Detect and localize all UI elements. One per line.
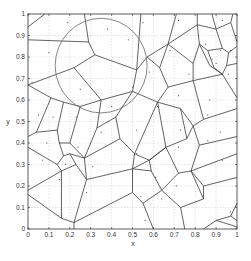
seed-point — [32, 82, 33, 83]
voronoi-edge — [28, 68, 74, 85]
seed-point — [145, 220, 146, 221]
voronoi-edge — [193, 74, 222, 80]
y-tick-label: 0.6 — [16, 96, 25, 103]
seed-point — [80, 89, 81, 90]
voronoi-edge — [160, 44, 168, 68]
seed-point — [76, 117, 77, 118]
voronoi-edge — [160, 68, 168, 87]
y-tick-label: 0.2 — [16, 182, 25, 189]
seed-point — [176, 186, 177, 187]
seed-point — [78, 147, 79, 148]
x-tick-label: 0.1 — [44, 231, 53, 238]
voronoi-edge — [151, 171, 161, 190]
voronoi-edge — [149, 160, 151, 171]
voronoi-edge — [143, 190, 162, 203]
seed-point — [65, 164, 66, 165]
voronoi-edge — [97, 100, 101, 128]
voronoi-edge — [191, 171, 204, 199]
voronoi-edge — [137, 14, 141, 70]
voronoi-edge — [84, 139, 120, 158]
seed-point — [92, 166, 93, 167]
seed-point — [230, 50, 231, 51]
seed-point — [207, 140, 208, 141]
voronoi-edge — [97, 117, 116, 128]
x-axis-label: x — [131, 240, 135, 247]
seed-point — [178, 95, 179, 96]
circle — [55, 18, 147, 113]
voronoi-edge — [116, 117, 120, 139]
x-tick-label: 0 — [26, 231, 30, 238]
voronoi-edge — [181, 199, 204, 208]
x-tick-label: 0.5 — [128, 231, 137, 238]
voronoi-edge — [193, 44, 199, 63]
voronoi-edge — [74, 68, 101, 100]
x-tick-label: 1 — [235, 231, 239, 238]
voronoi-edge — [28, 14, 45, 27]
voronoi-edge — [208, 51, 214, 68]
voronoi-edge — [222, 48, 228, 52]
x-tick-label: 0.3 — [86, 231, 95, 238]
voronoi-edge — [135, 102, 158, 154]
voronoi-edge — [204, 177, 237, 186]
y-tick-label: 0.7 — [16, 75, 25, 82]
voronoi-edge — [204, 109, 237, 120]
voronoi-edge — [133, 160, 150, 169]
seed-point — [149, 72, 150, 73]
voronoi-edge — [216, 216, 231, 220]
voronoi-edge — [158, 102, 181, 108]
seed-point — [136, 153, 137, 154]
seed-point — [161, 198, 162, 199]
voronoi-edge — [216, 23, 231, 29]
voronoi-edge — [197, 25, 199, 44]
seed-point — [38, 115, 39, 116]
seed-point — [209, 100, 210, 101]
voronoi-edge — [168, 81, 193, 87]
voronoi-edge — [133, 192, 143, 203]
voronoi-edge — [231, 14, 233, 23]
seed-point — [46, 143, 47, 144]
seed-point — [42, 160, 43, 161]
voronoi-edge — [36, 130, 57, 132]
voronoi-edge — [199, 137, 237, 146]
x-tick-label: 0.2 — [65, 231, 74, 238]
y-tick-label: 0.4 — [16, 139, 25, 146]
voronoi-edge — [59, 143, 63, 156]
voronoi-edge — [61, 165, 76, 171]
y-tick-label: 0.8 — [16, 53, 25, 60]
seed-point — [228, 74, 229, 75]
seed-point — [111, 106, 112, 107]
voronoi-edge — [133, 70, 137, 92]
x-tick-label: 0.9 — [212, 231, 221, 238]
seed-point — [188, 74, 189, 75]
seed-point — [86, 192, 87, 193]
seed-point — [53, 117, 54, 118]
seed-point — [142, 22, 143, 23]
voronoi-edge — [57, 156, 63, 165]
y-tick-label: 0.5 — [16, 118, 25, 125]
seed-point — [205, 44, 206, 45]
voronoi-edge — [204, 220, 217, 229]
voronoi-edge — [197, 25, 216, 29]
voronoi-edge — [84, 14, 88, 42]
seed-point — [180, 130, 181, 131]
voronoi-edge — [178, 171, 191, 173]
seed-point — [230, 211, 231, 212]
voronoi-edge — [28, 171, 61, 190]
seed-point — [136, 130, 137, 131]
voronoi-plot: 00.10.20.30.40.50.60.70.80.9100.10.20.30… — [0, 0, 251, 261]
voronoi-edge — [64, 154, 70, 156]
voronoi-edge — [133, 169, 152, 171]
voronoi-figure: 00.10.20.30.40.50.60.70.80.9100.10.20.30… — [0, 0, 251, 261]
seed-point — [222, 160, 223, 161]
voronoi-edge — [57, 130, 59, 143]
voronoi-edge — [87, 169, 133, 180]
voronoi-edge — [216, 29, 222, 48]
voronoi-edge — [210, 66, 223, 75]
voronoi-edge — [227, 53, 229, 66]
voronoi-edge — [181, 208, 185, 230]
voronoi-edge — [191, 154, 237, 171]
y-axis-label: y — [6, 118, 10, 126]
seed-point — [67, 22, 68, 23]
voronoi-edge — [147, 44, 168, 57]
voronoi-edge — [193, 119, 203, 125]
